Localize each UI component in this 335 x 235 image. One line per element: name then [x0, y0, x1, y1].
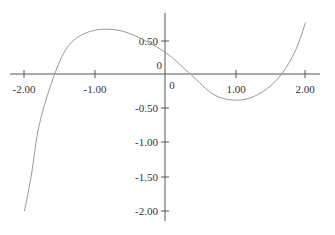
- y-tick-label: -1.50: [135, 171, 158, 183]
- y-tick-label: -0.50: [135, 102, 158, 114]
- x-tick-label: -2.00: [13, 83, 36, 95]
- y-tick-label: -2.00: [135, 205, 158, 217]
- y-tick-label: 0.50: [139, 35, 159, 47]
- x-tick-label: 2.00: [295, 83, 315, 95]
- x-tick-label: -1.00: [84, 83, 107, 95]
- x-tick-label: 1.00: [226, 83, 246, 95]
- y-tick-label: 0: [157, 59, 163, 71]
- y-tick-label: -1.00: [135, 136, 158, 148]
- chart: -2.00 -1.00 0 1.00 2.00 0.50 0 -0.50 -1.…: [0, 0, 335, 235]
- x-tick-label: 0: [169, 79, 175, 91]
